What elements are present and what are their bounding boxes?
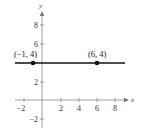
svg-text:−2: −2 bbox=[17, 104, 26, 113]
point-6-4 bbox=[95, 61, 100, 66]
svg-text:6: 6 bbox=[34, 40, 38, 49]
point-label-6-4: (6, 4) bbox=[88, 49, 107, 59]
svg-text:2: 2 bbox=[59, 104, 63, 113]
svg-text:4: 4 bbox=[77, 104, 81, 113]
svg-text:8: 8 bbox=[113, 104, 117, 113]
x-axis-label: x bbox=[130, 96, 135, 104]
svg-text:2: 2 bbox=[34, 78, 38, 87]
chart-canvas: x y −2 2 4 6 8 −2 2 6 8 (−1, 4) (6, 4) bbox=[0, 0, 144, 136]
svg-text:6: 6 bbox=[95, 104, 99, 113]
point-label-neg1-4: (−1, 4) bbox=[14, 49, 37, 59]
svg-text:8: 8 bbox=[34, 21, 38, 30]
point-neg1-4 bbox=[31, 61, 36, 66]
y-tick-labels: −2 2 6 8 bbox=[29, 21, 38, 124]
x-tick-labels: −2 2 4 6 8 bbox=[17, 104, 117, 113]
svg-text:−2: −2 bbox=[29, 115, 38, 124]
y-axis-label: y bbox=[38, 2, 43, 10]
